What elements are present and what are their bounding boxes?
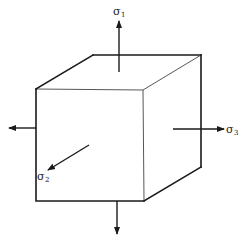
cube-front-face [36, 89, 144, 201]
svg-text:2: 2 [45, 176, 49, 184]
svg-text:1: 1 [121, 11, 125, 19]
cube-front-top-edge [36, 89, 143, 90]
sigma1-label: σ 1 [113, 5, 125, 19]
sigma3-label: σ 3 [226, 123, 238, 137]
cube-front-right-edge [143, 90, 144, 201]
cube-top-left-edge [36, 55, 93, 89]
svg-text:σ: σ [113, 5, 121, 18]
cube-bottom-right-edge [144, 167, 201, 201]
svg-text:σ: σ [226, 123, 234, 136]
sigma2-arrow [48, 145, 89, 170]
stress-cube-diagram: σ 1 σ 2 σ 3 [0, 0, 247, 245]
svg-text:σ: σ [37, 170, 45, 183]
cube [36, 55, 201, 201]
svg-text:3: 3 [234, 129, 238, 137]
sigma2-label: σ 2 [37, 170, 49, 184]
cube-top-right-edge [143, 55, 201, 90]
